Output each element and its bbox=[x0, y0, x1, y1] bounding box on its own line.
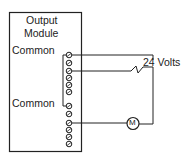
terminal-5 bbox=[66, 82, 72, 88]
terminal-3 bbox=[66, 68, 72, 74]
terminal-10 bbox=[66, 127, 72, 133]
module-title-line1: Output bbox=[26, 15, 58, 26]
terminal-1 bbox=[66, 52, 72, 58]
terminal-8 bbox=[66, 111, 72, 117]
common-label-1: Common bbox=[12, 45, 55, 56]
terminal-7 bbox=[66, 103, 72, 109]
terminal-4 bbox=[66, 75, 72, 81]
supply-wire-top bbox=[72, 55, 153, 60]
motor-label: M bbox=[129, 119, 136, 127]
supply-voltage-label: 24 Volts bbox=[143, 57, 180, 68]
return-wire bbox=[139, 67, 153, 124]
terminal-11 bbox=[66, 134, 72, 140]
terminal-2 bbox=[66, 60, 72, 66]
terminal-strip bbox=[66, 52, 72, 147]
terminal-6 bbox=[66, 89, 72, 95]
terminal-9 bbox=[66, 120, 72, 126]
module-title-line2: Module bbox=[24, 28, 58, 39]
terminal-12 bbox=[66, 141, 72, 147]
common-label-2: Common bbox=[12, 98, 55, 109]
